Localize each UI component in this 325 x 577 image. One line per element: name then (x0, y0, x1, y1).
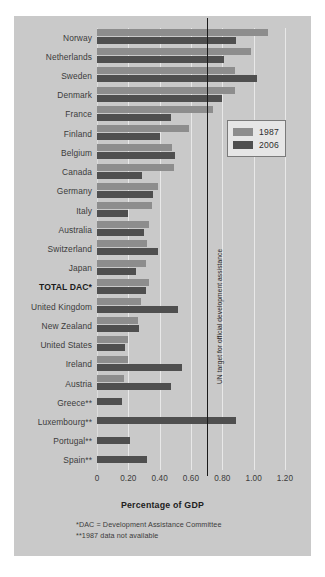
category-label: Germany (57, 186, 92, 196)
bar-1987 (97, 375, 124, 382)
legend-swatch-2006 (233, 141, 253, 149)
bar-2006 (97, 56, 224, 63)
bar-1987 (97, 356, 128, 363)
bar-2006 (97, 268, 136, 275)
bar-2006 (97, 248, 158, 255)
bar-row: Netherlands (97, 48, 285, 65)
bar-2006 (97, 75, 257, 82)
category-label: Portugal** (53, 436, 92, 446)
bar-row: Italy (97, 202, 285, 219)
category-label: Belgium (61, 148, 92, 158)
category-label: Luxembourg** (38, 417, 92, 427)
category-label: Denmark (57, 90, 92, 100)
bar-2006 (97, 152, 175, 159)
bar-2006 (97, 114, 171, 121)
bar-2006 (97, 229, 144, 236)
bar-1987 (97, 202, 152, 209)
category-label: United Kingdom (31, 302, 92, 312)
category-label: New Zealand (42, 321, 92, 331)
bar-row: New Zealand (97, 317, 285, 334)
bar-1987 (97, 164, 174, 171)
category-label: France (65, 109, 92, 119)
bar-1987 (97, 67, 235, 74)
bar-2006 (97, 191, 153, 198)
footnote-missing-data: **1987 data not available (76, 531, 158, 540)
bar-row: Austria (97, 375, 285, 392)
bar-row: Norway (97, 29, 285, 46)
bar-1987 (97, 106, 213, 113)
legend-label-2006: 2006 (259, 140, 279, 150)
bar-1987 (97, 298, 141, 305)
bar-2006 (97, 344, 125, 351)
bar-row: Denmark (97, 87, 285, 104)
bar-row: Australia (97, 221, 285, 238)
bar-2006 (97, 364, 182, 371)
legend-item-2006: 2006 (233, 139, 279, 151)
category-label: Netherlands (46, 52, 92, 62)
category-label: Sweden (61, 71, 92, 81)
x-tick-label: 0.40 (151, 474, 167, 483)
legend-label-1987: 1987 (259, 127, 279, 137)
bar-2006 (97, 172, 142, 179)
bar-1987 (97, 87, 235, 94)
bar-2006 (97, 383, 171, 390)
bar-2006 (97, 398, 122, 405)
x-axis-ticks: 00.200.400.600.801.001.20 (97, 474, 285, 486)
category-label: Italy (76, 206, 92, 216)
bar-2006 (97, 417, 236, 424)
x-tick-label: 1.20 (277, 474, 293, 483)
bar-row: Spain** (97, 452, 285, 469)
x-tick-label: 0.60 (183, 474, 199, 483)
x-tick-label: 0 (95, 474, 100, 483)
bar-row: Ireland (97, 356, 285, 373)
bar-row: Japan (97, 260, 285, 277)
category-label: Switzerland (48, 244, 92, 254)
category-label: Finland (64, 129, 92, 139)
legend-item-1987: 1987 (233, 126, 279, 138)
bar-row: TOTAL DAC* (97, 279, 285, 296)
bar-2006 (97, 456, 147, 463)
bar-row: Luxembourg** (97, 413, 285, 430)
bar-2006 (97, 437, 130, 444)
bar-row: Canada (97, 164, 285, 181)
x-tick-label: 1.00 (245, 474, 261, 483)
chart-figure: NorwayNetherlandsSwedenDenmarkFranceFinl… (14, 16, 311, 556)
bar-row: Switzerland (97, 240, 285, 257)
category-label: Norway (63, 33, 92, 43)
bar-row: Greece** (97, 394, 285, 411)
bar-row: Sweden (97, 67, 285, 84)
bar-1987 (97, 260, 146, 267)
bar-row: Germany (97, 183, 285, 200)
x-tick-label: 0.80 (214, 474, 230, 483)
bar-1987 (97, 183, 158, 190)
bar-2006 (97, 287, 146, 294)
bar-2006 (97, 210, 128, 217)
bar-1987 (97, 29, 268, 36)
bar-2006 (97, 95, 222, 102)
bar-2006 (97, 37, 236, 44)
bar-1987 (97, 125, 189, 132)
un-target-label: UN target for official development assis… (216, 249, 223, 384)
bar-row: United States (97, 336, 285, 353)
category-label: Ireland (66, 359, 92, 369)
bar-row: Portugal** (97, 433, 285, 450)
bar-1987 (97, 221, 149, 228)
category-label: Australia (59, 225, 92, 235)
category-label: United States (40, 340, 92, 350)
bar-2006 (97, 325, 139, 332)
category-label: Greece** (57, 398, 92, 408)
bar-1987 (97, 48, 251, 55)
gridline (285, 28, 286, 470)
x-tick-label: 0.20 (120, 474, 136, 483)
category-label: TOTAL DAC* (39, 282, 92, 292)
legend-swatch-1987 (233, 128, 253, 136)
bar-1987 (97, 144, 172, 151)
footnote-dac: *DAC = Development Assistance Committee (76, 520, 222, 529)
category-label: Austria (65, 379, 92, 389)
category-label: Canada (62, 167, 92, 177)
x-axis-title: Percentage of GDP (14, 500, 311, 510)
bar-1987 (97, 336, 128, 343)
un-target-line (207, 18, 208, 476)
plot-area: NorwayNetherlandsSwedenDenmarkFranceFinl… (97, 28, 285, 470)
bar-1987 (97, 279, 149, 286)
